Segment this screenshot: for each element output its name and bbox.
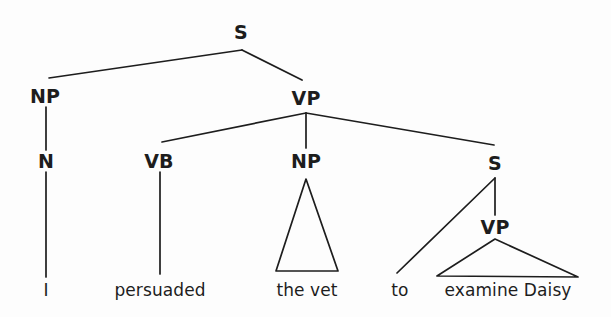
tree-edge [242, 50, 302, 80]
syntax-tree-diagram: SNPVPNVBNPSVP Ipersuadedthe vettoexamine… [0, 0, 611, 317]
tree-node-s-root: S [234, 23, 248, 42]
constituent-triangle [437, 239, 578, 277]
tree-leaf-leaf-persuaded: persuaded [114, 282, 205, 299]
edges-group [46, 50, 495, 277]
triangles-group [276, 179, 578, 277]
tree-node-np-2: NP [291, 152, 321, 171]
tree-edge [306, 113, 494, 145]
tree-edge [49, 50, 242, 78]
tree-node-np-1: NP [30, 87, 60, 106]
tree-leaf-leaf-i: I [43, 282, 48, 299]
tree-leaf-leaf-examine: examine Daisy [444, 282, 571, 299]
tree-node-s-embed: S [488, 154, 502, 173]
tree-edge [162, 113, 306, 142]
tree-node-vp-2: VP [480, 218, 509, 237]
tree-node-n-1: N [38, 152, 54, 171]
tree-node-vb-1: VB [144, 152, 174, 171]
tree-leaf-leaf-the-vet: the vet [276, 282, 337, 299]
constituent-triangle [276, 179, 338, 271]
tree-node-vp-1: VP [291, 89, 320, 108]
tree-leaf-leaf-to: to [391, 282, 408, 299]
